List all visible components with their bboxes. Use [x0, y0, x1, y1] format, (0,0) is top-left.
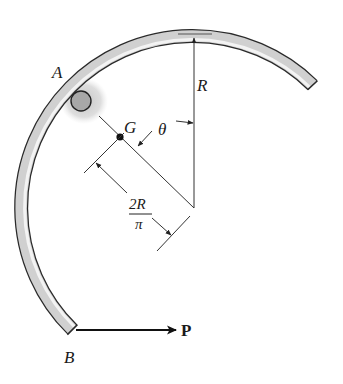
pin-a [71, 91, 91, 111]
dimension-arrow-lower [152, 218, 171, 235]
fraction-denominator: π [135, 216, 143, 232]
label-b: B [64, 348, 75, 367]
label-theta: θ [158, 120, 166, 139]
extension-line-g [84, 133, 124, 173]
radial-line [99, 116, 194, 208]
label-g: G [124, 118, 136, 137]
fraction-numerator: 2R [129, 196, 146, 212]
curved-rod-diagram: A B G R θ P 2R π [0, 0, 343, 384]
dimension-arrow-upper [96, 163, 127, 193]
label-r: R [196, 76, 208, 95]
label-a: A [51, 63, 63, 82]
extension-line-center [157, 216, 190, 251]
dimension-label-2r-over-pi: 2R π [129, 196, 152, 232]
angle-arrow-left [138, 131, 152, 146]
label-p: P [181, 321, 191, 340]
angle-arrow-right [176, 121, 193, 123]
